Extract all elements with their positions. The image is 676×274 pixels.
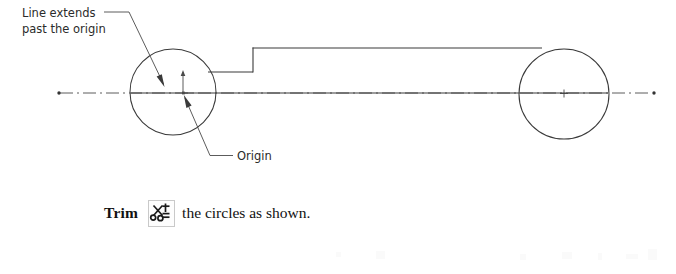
- origin-callout-label: Origin: [237, 149, 272, 163]
- origin-arrowhead: [184, 95, 192, 108]
- line-extends-arrowhead: [157, 74, 165, 87]
- trim-command-label: Trim: [104, 204, 138, 222]
- line-extends-callout: Line extends past the origin: [22, 6, 165, 87]
- origin-axis-marker: [181, 70, 192, 94]
- trim-instruction-rest-text: the circles as shown.: [182, 204, 310, 222]
- centerline-left-endpoint: [57, 91, 60, 94]
- cad-sketch-drawing: Line extends past the origin Origin: [0, 0, 676, 274]
- origin-point: [182, 92, 185, 95]
- left-circle: [130, 49, 216, 135]
- trim-icon-glyph: [149, 201, 172, 224]
- origin-y-arrowhead: [181, 70, 186, 76]
- line-extends-callout-line1: Line extends: [22, 6, 95, 20]
- trim-scissors-icon[interactable]: [148, 200, 175, 227]
- trim-instruction-caption: Trim the circles as shown.: [104, 200, 310, 226]
- figure-root: Line extends past the origin Origin Trim: [0, 0, 676, 274]
- centerline-right-endpoint: [652, 91, 655, 94]
- step-profile: [208, 48, 542, 73]
- origin-callout: Origin: [184, 95, 272, 163]
- line-extends-callout-line2: past the origin: [22, 22, 106, 36]
